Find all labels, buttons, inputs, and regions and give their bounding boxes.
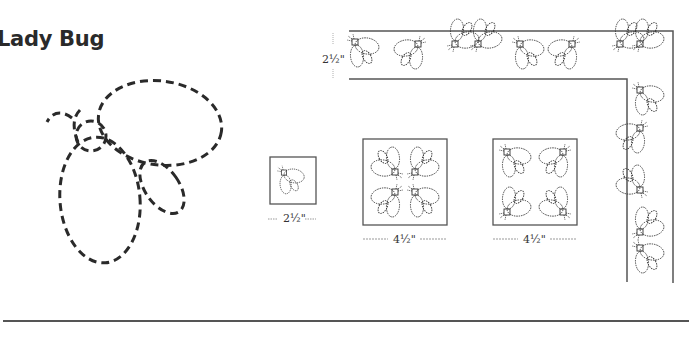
block-four-outward: 4½" <box>493 139 577 246</box>
block-four-outward-size-label: 4½" <box>523 233 546 246</box>
border-width-label: 2½" <box>322 53 345 66</box>
head-shape <box>76 121 106 151</box>
border-sample: 2½" <box>322 18 673 283</box>
block-single: 2½" <box>268 157 316 225</box>
lower-wing-shape <box>55 134 146 266</box>
block-single-size-label: 2½" <box>283 212 306 225</box>
block-four-inward-size-label: 4½" <box>393 233 416 246</box>
horizontal-divider <box>3 320 689 322</box>
antenna-left-icon <box>47 113 72 122</box>
upper-wing-shape <box>93 73 227 173</box>
large-ladybug-diagram <box>47 73 227 266</box>
block-four-inward: 4½" <box>363 139 447 246</box>
